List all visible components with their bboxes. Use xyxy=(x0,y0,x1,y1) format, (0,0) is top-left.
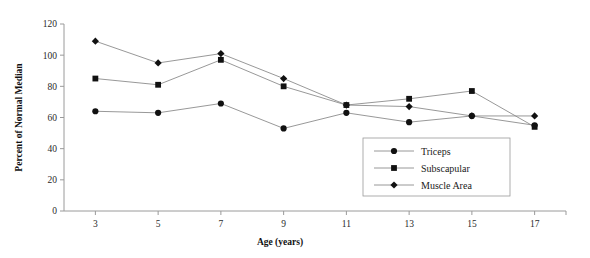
data-point-triceps-3 xyxy=(92,108,98,114)
data-point-subscapular-3 xyxy=(92,76,98,82)
data-point-subscapular-5 xyxy=(155,82,161,88)
x-tick-label: 5 xyxy=(156,219,161,229)
legend-marker-circle xyxy=(391,148,397,154)
x-tick-label: 15 xyxy=(467,219,477,229)
y-tick-label: 20 xyxy=(48,175,58,185)
data-point-triceps-11 xyxy=(343,110,349,116)
data-point-triceps-5 xyxy=(155,110,161,116)
data-point-triceps-13 xyxy=(406,119,412,125)
x-tick-label: 9 xyxy=(281,219,286,229)
x-axis-title: Age (years) xyxy=(257,237,303,248)
data-point-subscapular-9 xyxy=(281,83,287,89)
data-point-muscle-area-5 xyxy=(155,59,162,66)
y-tick-label: 60 xyxy=(48,113,58,123)
x-tick-label: 13 xyxy=(404,219,414,229)
series-line-subscapular xyxy=(95,60,534,127)
series-line-muscle-area xyxy=(95,41,534,116)
x-tick-label: 17 xyxy=(530,219,540,229)
legend-marker-square xyxy=(391,165,397,171)
legend-label-subscapular: Subscapular xyxy=(421,163,471,174)
data-point-muscle-area-3 xyxy=(92,38,99,45)
y-tick-label: 120 xyxy=(43,19,58,29)
y-tick-label: 80 xyxy=(48,82,58,92)
data-point-triceps-9 xyxy=(281,125,287,131)
data-point-muscle-area-7 xyxy=(217,50,224,57)
y-tick-label: 100 xyxy=(43,51,58,61)
data-point-muscle-area-13 xyxy=(406,103,413,110)
data-point-subscapular-7 xyxy=(218,57,224,63)
data-series-group xyxy=(92,38,538,132)
x-tick-label: 11 xyxy=(342,219,351,229)
y-tick-label: 40 xyxy=(48,144,58,154)
line-chart: 020406080100120 357911131517 TricepsSubs… xyxy=(0,0,590,258)
data-point-muscle-area-15 xyxy=(468,112,475,119)
data-point-muscle-area-17 xyxy=(531,112,538,119)
data-point-subscapular-17 xyxy=(532,124,538,130)
x-axis: 357911131517 xyxy=(64,211,566,229)
data-point-triceps-7 xyxy=(218,100,224,106)
legend-label-triceps: Triceps xyxy=(421,146,451,157)
legend-label-muscle-area: Muscle Area xyxy=(421,180,472,191)
y-tick-label: 0 xyxy=(52,206,57,216)
data-point-subscapular-15 xyxy=(469,88,475,94)
chart-container: 020406080100120 357911131517 TricepsSubs… xyxy=(0,0,590,258)
data-point-muscle-area-9 xyxy=(280,75,287,82)
x-tick-label: 3 xyxy=(93,219,98,229)
y-axis-title: Percent of Normal Median xyxy=(14,63,24,172)
chart-legend: TricepsSubscapularMuscle Area xyxy=(363,138,510,196)
y-axis: 020406080100120 xyxy=(43,19,64,216)
data-point-subscapular-13 xyxy=(406,96,412,102)
x-tick-label: 7 xyxy=(219,219,224,229)
